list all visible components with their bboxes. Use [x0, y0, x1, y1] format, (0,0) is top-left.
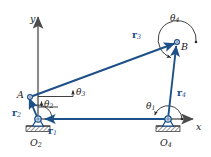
joint-A	[28, 95, 33, 100]
x-axis-label: x	[196, 122, 201, 132]
angle-label-theta2: θ2	[44, 100, 53, 109]
point-label-A: A	[17, 90, 24, 100]
theta4-x-tick	[195, 41, 198, 44]
vector-label-r2: r2	[12, 108, 21, 119]
ground-hatch-O2	[26, 126, 50, 131]
point-label-O4: O4	[160, 138, 172, 149]
vector-r3	[30, 44, 175, 98]
angle-label-theta3: θ3	[76, 88, 85, 97]
four-bar-linkage-figure: y x A B O2 O4 r1 r2 r3 r4 θ1 θ2 θ3 θ4	[0, 0, 211, 157]
y-axis-label: y	[30, 14, 35, 24]
joint-B	[175, 40, 180, 45]
theta1-x-tick	[181, 118, 184, 121]
vector-label-r4: r4	[177, 88, 186, 99]
vector-label-r3: r3	[132, 30, 141, 41]
point-label-B: B	[181, 42, 188, 52]
angle-label-theta4: θ4	[170, 14, 179, 23]
ground-hatch-O4	[156, 126, 180, 131]
vector-label-r1: r1	[48, 126, 57, 137]
point-label-O2: O2	[30, 138, 42, 149]
angle-arcs	[30, 21, 197, 121]
angle-label-theta1: θ1	[146, 102, 155, 111]
